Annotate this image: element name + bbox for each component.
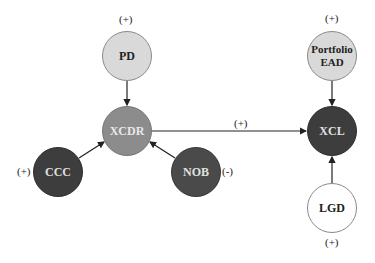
node-pd-label: PD [119,49,135,63]
sign-lgd: (+) [325,236,339,248]
edge-nob-xcdr [150,142,175,158]
node-lgd-label: LGD [319,201,345,215]
node-pd: PD [102,31,152,81]
node-xcdr-label: XCDR [110,124,145,138]
sign-xcdr-xcl: (+) [234,117,248,129]
node-ead-label-line1: Portfolio [311,43,353,56]
node-xcdr: XCDR [102,106,152,156]
sign-ccc: (+) [17,165,31,177]
node-xcl-label: XCL [319,124,344,138]
node-ccc: CCC [33,147,83,197]
node-xcl: XCL [307,106,357,156]
edge-ccc-xcdr [79,142,104,158]
node-lgd: LGD [307,183,357,233]
node-ead-label-line2: EAD [320,56,343,69]
node-nob: NOB [171,147,221,197]
node-portfolio-ead: Portfolio EAD [307,31,357,81]
node-nob-label: NOB [183,165,209,179]
sign-pd: (+) [119,13,133,25]
sign-nob: (-) [222,165,233,177]
sign-portfolio-ead: (+) [325,12,339,24]
node-ccc-label: CCC [45,165,71,179]
